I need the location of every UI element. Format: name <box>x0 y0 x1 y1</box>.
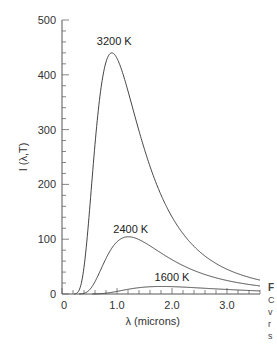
caption-line: s <box>268 330 275 342</box>
y-tick-label: 300 <box>38 124 56 136</box>
caption-line: C <box>268 294 275 306</box>
curve-label: 3200 K <box>97 35 133 47</box>
y-tick-label: 0 <box>50 288 56 300</box>
curve-2400k <box>79 237 260 294</box>
x-tick-label: 3.0 <box>219 299 234 311</box>
curve-3200k <box>74 53 260 294</box>
x-axis-title: λ (microns) <box>126 315 180 327</box>
x-tick-label: 2.0 <box>164 299 179 311</box>
caption-heading: F <box>268 282 275 294</box>
curve-label: 1600 K <box>155 271 191 283</box>
x-tick-label: 0 <box>61 299 67 311</box>
y-tick-label: 500 <box>38 14 56 26</box>
blackbody-chart: 010020030040050001.02.03.0λ (microns)I (… <box>0 0 277 346</box>
x-tick-label: 1.0 <box>109 299 124 311</box>
caption-line: r <box>268 318 275 330</box>
y-axis-title: I (λ,T) <box>17 143 29 172</box>
curves <box>74 53 260 294</box>
y-tick-label: 200 <box>38 178 56 190</box>
side-caption-fragment: F C v r s <box>268 282 275 342</box>
y-tick-label: 400 <box>38 69 56 81</box>
curve-labels: 3200 K2400 K1600 K <box>97 35 190 283</box>
curve-label: 2400 K <box>113 223 149 235</box>
curve-1600k <box>92 286 260 294</box>
y-tick-label: 100 <box>38 233 56 245</box>
caption-line: v <box>268 306 275 318</box>
